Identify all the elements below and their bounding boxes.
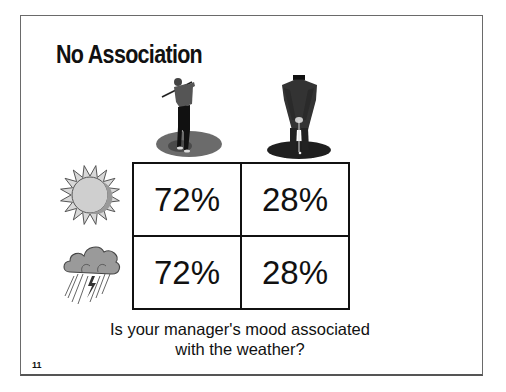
cell-rainy-bad-mood: 28%: [241, 236, 349, 309]
sun-icon: [58, 163, 122, 227]
table-row-rainy: 72% 28%: [133, 236, 349, 309]
cell-sunny-bad-mood: 28%: [241, 163, 349, 236]
rain-cloud-icon: [60, 238, 124, 310]
slide-caption: Is your manager's mood associated with t…: [0, 319, 480, 359]
golfer-putting-icon: [262, 70, 338, 162]
slide-title: No Association: [56, 40, 202, 69]
contingency-table: 72% 28% 72% 28%: [132, 162, 350, 310]
table-row-sunny: 72% 28%: [133, 163, 349, 236]
golfer-swinging-icon: [150, 72, 230, 162]
page-number: 11: [32, 360, 42, 370]
cell-sunny-good-mood: 72%: [133, 163, 241, 236]
caption-line-1: Is your manager's mood associated: [0, 319, 480, 339]
caption-line-2: with the weather?: [0, 339, 480, 359]
cell-rainy-good-mood: 72%: [133, 236, 241, 309]
